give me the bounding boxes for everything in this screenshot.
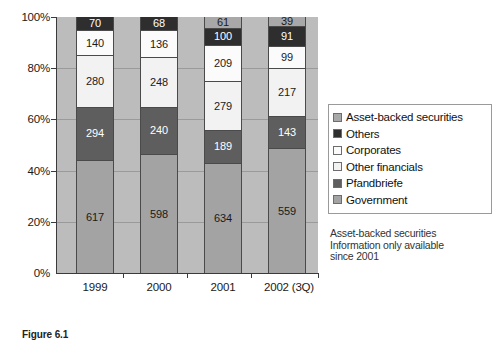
bar-2000-value-corporates: 136 bbox=[150, 39, 168, 50]
legend-footnote-line-1: Asset-backed securities bbox=[330, 228, 495, 240]
bar-1999-value-pfandbriefe: 294 bbox=[86, 128, 104, 139]
legend-item-asset-backed-securities[interactable]: Asset-backed securities bbox=[333, 109, 487, 126]
bar-2001-value-asset-backed-securities: 61 bbox=[217, 17, 229, 28]
x-tick-label-2001: 2001 bbox=[211, 281, 236, 293]
bar-2002-3q-segment-government[interactable]: 559 bbox=[269, 148, 305, 273]
legend-label-others: Others bbox=[346, 128, 379, 140]
bar-2001-segment-others[interactable]: 100 bbox=[205, 28, 241, 45]
x-tick-mark-1999 bbox=[123, 273, 124, 278]
bar-2001-segment-asset-backed-securities[interactable]: 61 bbox=[205, 17, 241, 28]
bar-2001-segment-corporates[interactable]: 209 bbox=[205, 45, 241, 81]
bar-2002-3q-value-other-financials: 217 bbox=[278, 87, 296, 98]
x-tick-mark-2000 bbox=[187, 273, 188, 278]
legend-footnote-line-3: since 2001 bbox=[330, 251, 495, 263]
bar-2002-3q-segment-corporates[interactable]: 99 bbox=[269, 46, 305, 68]
figure-caption: Figure 6.1 bbox=[22, 329, 68, 340]
bar-2000-value-other-financials: 248 bbox=[150, 77, 168, 88]
legend-item-others[interactable]: Others bbox=[333, 126, 487, 143]
legend-item-corporates[interactable]: Corporates bbox=[333, 142, 487, 159]
legend-label-corporates: Corporates bbox=[346, 144, 401, 156]
bar-1999[interactable]: 70 140 280 294 617 bbox=[76, 17, 114, 273]
legend-swatch-asset-backed-securities bbox=[333, 113, 342, 122]
bar-1999-segment-others[interactable]: 70 bbox=[77, 17, 113, 30]
legend-swatch-others bbox=[333, 129, 342, 138]
plot-area: 70 140 280 294 617 68 136 248 bbox=[56, 17, 318, 273]
y-tick-label-0: 0% bbox=[6, 267, 50, 279]
bar-2002-3q-value-asset-backed-securities: 39 bbox=[281, 17, 293, 26]
bar-2002-3q[interactable]: 39 91 99 217 143 559 bbox=[268, 17, 306, 273]
y-tick-label-20: 20% bbox=[6, 216, 50, 228]
bar-2002-3q-value-government: 559 bbox=[278, 206, 296, 217]
bar-2000-segment-other-financials[interactable]: 248 bbox=[141, 57, 177, 106]
legend-item-other-financials[interactable]: Other financials bbox=[333, 159, 487, 176]
bar-2001-value-other-financials: 279 bbox=[214, 101, 232, 112]
bar-2002-3q-segment-others[interactable]: 91 bbox=[269, 26, 305, 46]
y-tick-label-60: 60% bbox=[6, 113, 50, 125]
figure-caption-label: Figure 6.1 bbox=[22, 329, 68, 340]
bar-2001-segment-other-financials[interactable]: 279 bbox=[205, 81, 241, 130]
y-tick-label-80: 80% bbox=[6, 62, 50, 74]
bar-2002-3q-value-corporates: 99 bbox=[281, 52, 293, 63]
bar-2001-value-corporates: 209 bbox=[214, 58, 232, 69]
bar-1999-segment-other-financials[interactable]: 280 bbox=[77, 55, 113, 106]
bar-2000[interactable]: 68 136 248 240 598 bbox=[140, 17, 178, 273]
legend-swatch-pfandbriefe bbox=[333, 179, 342, 188]
bar-2000-segment-corporates[interactable]: 136 bbox=[141, 30, 177, 57]
legend: Asset-backed securities Others Corporate… bbox=[328, 104, 492, 214]
bar-1999-value-corporates: 140 bbox=[86, 38, 104, 49]
y-tick-label-100: 100% bbox=[6, 11, 50, 23]
bar-2001-value-government: 634 bbox=[214, 213, 232, 224]
bar-1999-segment-government[interactable]: 617 bbox=[77, 160, 113, 273]
legend-label-government: Government bbox=[346, 194, 407, 206]
legend-footnote: Asset-backed securities Information only… bbox=[330, 228, 495, 263]
bar-1999-value-government: 617 bbox=[86, 212, 104, 223]
bar-2002-3q-segment-other-financials[interactable]: 217 bbox=[269, 68, 305, 116]
bar-1999-segment-corporates[interactable]: 140 bbox=[77, 30, 113, 56]
bar-2002-3q-value-pfandbriefe: 143 bbox=[278, 127, 296, 138]
legend-label-pfandbriefe: Pfandbriefe bbox=[346, 177, 403, 189]
bar-2002-3q-segment-pfandbriefe[interactable]: 143 bbox=[269, 116, 305, 148]
bar-2001-segment-government[interactable]: 634 bbox=[205, 163, 241, 273]
bar-2000-segment-others[interactable]: 68 bbox=[141, 17, 177, 30]
legend-swatch-corporates bbox=[333, 146, 342, 155]
bar-2001[interactable]: 61 100 209 279 189 634 bbox=[204, 17, 242, 273]
bar-2000-value-government: 598 bbox=[150, 209, 168, 220]
legend-label-asset-backed-securities: Asset-backed securities bbox=[346, 111, 463, 123]
x-tick-label-2000: 2000 bbox=[147, 281, 172, 293]
bar-1999-value-other-financials: 280 bbox=[86, 76, 104, 87]
legend-swatch-government bbox=[333, 195, 342, 204]
bar-2000-segment-pfandbriefe[interactable]: 240 bbox=[141, 107, 177, 155]
bar-2001-value-others: 100 bbox=[214, 31, 232, 42]
bar-2002-3q-segment-asset-backed-securities[interactable]: 39 bbox=[269, 17, 305, 26]
legend-swatch-other-financials bbox=[333, 162, 342, 171]
bar-2001-value-pfandbriefe: 189 bbox=[214, 141, 232, 152]
y-axis: 100% 80% 60% 40% 20% 0% bbox=[0, 0, 50, 338]
x-tick-label-1999: 1999 bbox=[83, 281, 108, 293]
legend-item-government[interactable]: Government bbox=[333, 192, 487, 209]
x-tick-label-2002-3q: 2002 (3Q) bbox=[264, 281, 314, 293]
bar-2000-value-pfandbriefe: 240 bbox=[150, 125, 168, 136]
bar-1999-value-others: 70 bbox=[89, 18, 101, 29]
bar-2002-3q-value-others: 91 bbox=[281, 31, 293, 42]
bar-1999-segment-pfandbriefe[interactable]: 294 bbox=[77, 107, 113, 161]
bar-2000-segment-government[interactable]: 598 bbox=[141, 154, 177, 273]
y-axis-line bbox=[56, 17, 57, 274]
x-tick-mark-2001 bbox=[251, 273, 252, 278]
legend-item-pfandbriefe[interactable]: Pfandbriefe bbox=[333, 175, 487, 192]
bar-2000-value-others: 68 bbox=[153, 18, 165, 29]
bar-2001-segment-pfandbriefe[interactable]: 189 bbox=[205, 130, 241, 163]
x-tick-mark-2002-3q bbox=[318, 273, 319, 278]
legend-label-other-financials: Other financials bbox=[346, 161, 423, 173]
y-tick-label-40: 40% bbox=[6, 165, 50, 177]
